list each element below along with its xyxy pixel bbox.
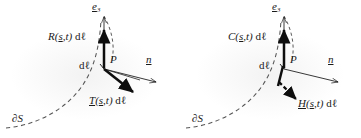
boundary-label-left: ∂S xyxy=(12,113,23,124)
normal-vector-label-right: n xyxy=(328,54,334,65)
boundary-label-right: ∂S xyxy=(192,113,203,124)
panel-right-graphics xyxy=(180,0,361,138)
normal-vector-label-left: n xyxy=(146,54,152,65)
panel-left-graphics xyxy=(0,0,180,138)
normal-vector-line-right xyxy=(284,69,338,82)
panel-right: e3 C(s,t) dℓ dℓ P n H(s,t) dℓ ∂S xyxy=(180,0,360,138)
vertical-vector-label-left: R(s,t) dℓ xyxy=(48,31,86,42)
vector-diagram-figure: e3 R(s,t) dℓ dℓ P n T(s,t) dℓ ∂S xyxy=(0,0,361,138)
element-measure-label-left: dℓ xyxy=(79,60,90,71)
point-label-left: P xyxy=(110,54,117,65)
element-measure-label-right: dℓ xyxy=(259,60,270,71)
oblique-vector-label-right: H(s,t) dℓ xyxy=(298,98,337,109)
oblique-vector-arrow-right xyxy=(279,82,296,99)
point-label-right: P xyxy=(290,54,297,65)
axis-e3-label-right: e3 xyxy=(272,1,280,14)
panel-left: e3 R(s,t) dℓ dℓ P n T(s,t) dℓ ∂S xyxy=(0,0,180,138)
axis-e3-label-left: e3 xyxy=(92,1,100,14)
oblique-vector-label-left: T(s,t) dℓ xyxy=(89,95,126,106)
vertical-vector-label-right: C(s,t) dℓ xyxy=(228,31,266,42)
